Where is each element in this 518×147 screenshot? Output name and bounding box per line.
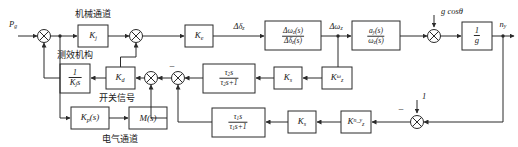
block-one-over-g-label: 1 g [474,26,480,46]
signal-label-ny: ny [500,20,507,30]
block-k-omega-z-label: Kωz [331,73,344,82]
signal-label-unity: 1 [422,92,426,101]
control-block-diagram: Pg 机械通道 Kj Ke Δδz Δωz(s) Δδz(s) Δωz ay(s… [0,0,518,147]
block-tf-wz-dz-label: Δωz(s) Δδz(s) [282,27,304,46]
block-kp-s-label: Kp(s) [81,113,100,122]
signal-label-delta-dz: Δδz [233,22,244,32]
block-one-over-kjs-label: 1 Kjs [69,68,82,88]
block-tf-ay-wz-label: ay(s) ωz(s) [367,27,384,46]
block-washout2-label: τ2s τ2s+1 [219,69,238,88]
label-electrical-channel: 电气通道 [102,135,138,144]
label-switch-signal: 开关信号 [99,94,135,103]
label-mechanical-channel: 机械通道 [75,10,111,19]
signal-label-delta-wz: Δωz [329,22,342,32]
signal-label-pg: Pg [9,20,17,30]
block-kd-label: Kd [115,73,124,82]
label-measuring-mechanism: 测效机构 [57,51,93,60]
signal-label-gcos-theta: g cosθ [441,7,463,16]
block-ke-label: Ke [195,31,204,40]
sign-minus-mid: − [169,62,175,72]
block-washout1-label: τ1s τ1s+1 [228,113,247,132]
block-k-ny-label: Kn_yz [348,117,365,126]
block-ks-mid-label: Ks [284,73,292,82]
block-m-s-label: M(s) [140,114,157,123]
block-kj-label: Kj [89,31,97,40]
sign-minus-bottom: − [398,105,404,115]
block-ks-bottom-label: Ks [298,117,306,126]
